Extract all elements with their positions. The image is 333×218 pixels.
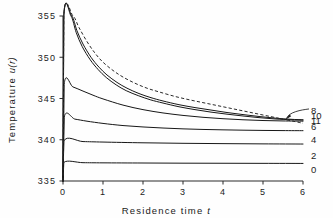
y-axis-variable-arg: (r)	[6, 57, 17, 68]
y-tick-label: 335	[38, 176, 56, 186]
curve-4	[63, 113, 303, 181]
x-tick-label: 2	[140, 187, 146, 197]
x-tick-label: 1	[100, 187, 106, 197]
curve-label-2: 2	[311, 150, 316, 161]
x-tick-label: 6	[300, 187, 306, 197]
curve-11	[63, 3, 303, 181]
curve-label-0: 0	[311, 164, 316, 175]
x-tick-label: 4	[220, 187, 226, 197]
curve-10	[63, 3, 303, 181]
y-axis-title-text: Temperature	[6, 73, 17, 143]
curve-label-6: 6	[311, 121, 316, 132]
curve-label-4: 4	[311, 134, 316, 145]
x-axis-tick-labels: 0123456	[60, 187, 306, 197]
x-tick-label: 3	[180, 187, 186, 197]
x-axis-variable: t	[207, 205, 210, 216]
x-axis-title: Residence time t	[122, 205, 210, 216]
y-axis-tick-labels: 335340345350355	[38, 11, 56, 186]
x-tick-label: 5	[260, 187, 266, 197]
y-axis-title: Temperature u(r)	[6, 57, 17, 143]
curve-6	[63, 78, 303, 181]
curve-2	[63, 138, 303, 181]
annotation-arrow	[285, 109, 309, 120]
y-tick-label: 345	[38, 94, 56, 104]
x-axis-title-text: Residence time	[122, 205, 207, 216]
y-tick-label: 350	[38, 53, 56, 63]
curve-labels: 810116420	[311, 105, 322, 176]
y-tick-label: 340	[38, 135, 56, 145]
data-curves	[63, 3, 303, 181]
curve-0	[63, 161, 303, 181]
x-tick-label: 0	[60, 187, 66, 197]
curve-8	[63, 3, 303, 181]
temperature-residence-time-chart: 335340345350355 0123456 810116420 Reside…	[0, 0, 333, 218]
y-tick-label: 355	[38, 11, 56, 21]
figure-container: 335340345350355 0123456 810116420 Reside…	[0, 0, 333, 218]
